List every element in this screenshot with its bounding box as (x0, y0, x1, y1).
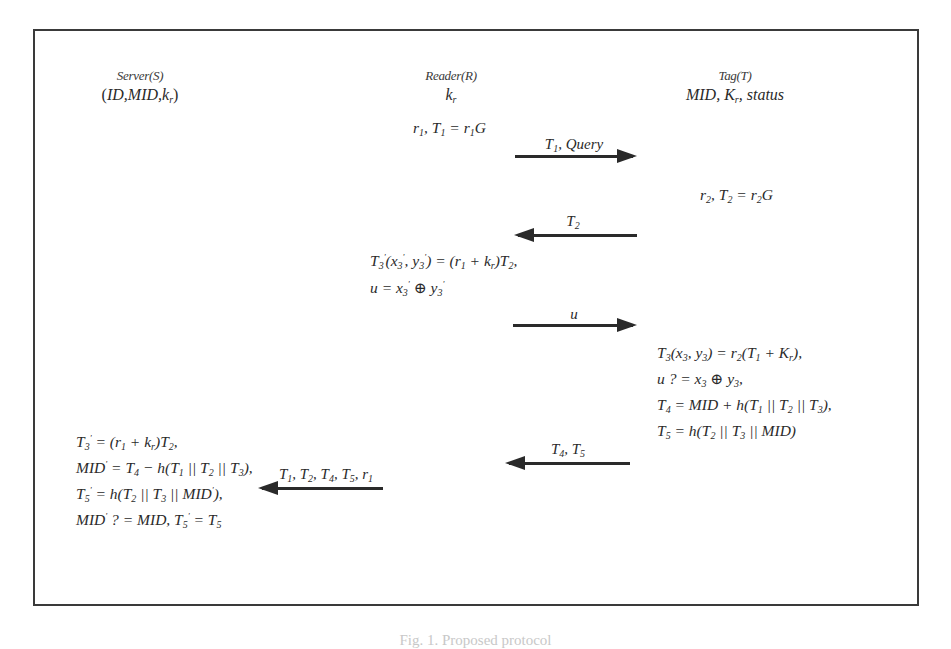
reader-label: Reader(R) (425, 68, 476, 84)
server-knowledge: (ID,MID,kr) (102, 86, 179, 104)
tag-compute-line-1: T3(x3, y3) = r2(T1 + Kr), (657, 344, 802, 362)
arrowhead-left-icon (514, 228, 534, 242)
message-5-label: T1, T2, T4, T5, r1 (279, 466, 373, 483)
message-4-label: T4, T5 (551, 441, 585, 458)
tag-compute-line-4: T5 = h(T2 || T3 || MID) (657, 422, 796, 440)
reader-compute-line-1: T3'(x3', y3') = (r1 + kr)T2, (370, 252, 517, 270)
tag-init-equation: r2, T2 = r2G (700, 186, 773, 204)
arrowhead-left-icon (258, 481, 278, 495)
message-2-label: T2 (566, 213, 579, 230)
tag-label: Tag(T) (718, 68, 751, 84)
figure-caption: Fig. 1. Proposed protocol (0, 632, 951, 649)
arrow-reader-to-tag-1 (515, 155, 633, 158)
server-compute-line-1: T3' = (r1 + kr)T2, (76, 433, 178, 451)
message-1-label: T1, Query (545, 136, 603, 153)
arrowhead-right-icon (617, 318, 637, 332)
server-compute-line-3: T5' = h(T2 || T3 || MID'), (76, 485, 223, 503)
arrow-reader-to-server (262, 487, 383, 490)
arrow-tag-to-reader-1 (518, 234, 637, 237)
server-compute-line-2: MID' = T4 − h(T1 || T2 || T3), (76, 459, 253, 477)
tag-compute-line-2: u ? = x3 ⊕ y3, (657, 370, 743, 388)
tag-compute-line-3: T4 = MID + h(T1 || T2 || T3), (657, 396, 832, 414)
message-3-label: u (570, 306, 578, 323)
reader-knowledge: kr (445, 86, 456, 104)
tag-knowledge: MID, Kr, status (686, 86, 784, 104)
server-label: Server(S) (117, 68, 163, 84)
arrow-tag-to-reader-2 (509, 462, 630, 465)
arrowhead-left-icon (505, 456, 525, 470)
reader-compute-line-2: u = x3' ⊕ y3' (370, 279, 444, 297)
server-compute-line-4: MID' ? = MID, T5' = T5 (76, 511, 221, 529)
arrow-reader-to-tag-2 (513, 324, 633, 327)
arrowhead-right-icon (617, 149, 637, 163)
reader-init-equation: r1, T1 = r1G (413, 119, 486, 137)
